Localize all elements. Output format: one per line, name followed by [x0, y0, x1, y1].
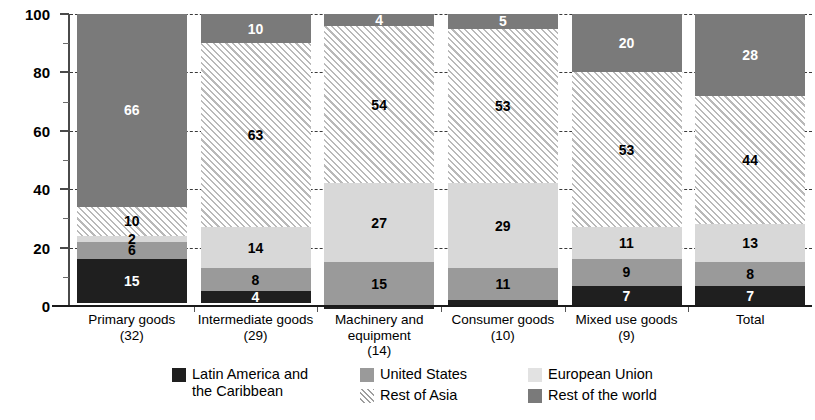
us-swatch: [360, 368, 374, 382]
segment: 28: [695, 14, 805, 96]
legend-item[interactable]: United States: [360, 366, 467, 383]
segment: 11: [448, 268, 558, 300]
segment-value-label: 8: [252, 273, 260, 287]
y-tick-40: [60, 188, 69, 190]
y-tick-minor-70: [63, 102, 69, 103]
eu-swatch: [528, 368, 542, 382]
segment-value-label: 10: [248, 22, 264, 36]
segment: 63: [201, 43, 311, 227]
segment-value-label: 5: [499, 14, 507, 28]
bar-machinery-and-equipment[interactable]: 4542715: [324, 14, 434, 306]
segment: 53: [572, 72, 682, 227]
y-tick-label-40: 40: [14, 182, 50, 197]
segment: 20: [572, 14, 682, 72]
legend-item[interactable]: European Union: [528, 366, 653, 383]
legend-label: United States: [380, 366, 467, 383]
segment-value-label: 53: [619, 143, 635, 157]
chart-legend: Latin America and the CaribbeanUnited St…: [0, 366, 815, 416]
y-tick-label-100: 100: [14, 7, 50, 22]
bar-primary-goods[interactable]: 66102615: [77, 14, 187, 306]
y-tick-label-80: 80: [14, 65, 50, 80]
legend-item[interactable]: Rest of Asia: [360, 387, 457, 404]
y-tick-60: [60, 130, 69, 132]
y-tick-100: [60, 13, 69, 15]
segment-value-label: 10: [124, 214, 140, 228]
segment-value-label: 28: [742, 48, 758, 62]
segment-value-label: 11: [619, 236, 634, 250]
legend-label: Rest of Asia: [380, 387, 457, 404]
lac-swatch: [172, 368, 186, 382]
y-tick-label-60: 60: [14, 124, 50, 139]
legend-item[interactable]: Latin America and the Caribbean: [172, 366, 308, 400]
segment: 54: [324, 26, 434, 184]
segment: 14: [201, 227, 311, 268]
segment: 27: [324, 183, 434, 262]
category-label-6: Total: [675, 312, 815, 328]
segment-value-label: 8: [746, 267, 754, 281]
x-axis-line: [52, 305, 812, 307]
segment-value-label: 14: [248, 241, 264, 255]
y-tick-minor-90: [63, 43, 69, 44]
segment: 10: [201, 14, 311, 43]
segment-value-label: 29: [495, 219, 511, 233]
x-axis-category-labels: Primary goods (32)Intermediate goods (29…: [0, 312, 815, 360]
segment-value-label: 4: [252, 290, 260, 304]
row-swatch: [528, 389, 542, 403]
plot-area: 6610261510631484454271555329112053119728…: [70, 14, 812, 306]
segment: 4: [324, 14, 434, 26]
legend-label: European Union: [548, 366, 653, 383]
y-tick-minor-10: [63, 277, 69, 278]
legend-label: Rest of the world: [548, 387, 657, 404]
segment-value-label: 15: [124, 274, 140, 288]
segment-value-label: 63: [248, 128, 264, 142]
segment: 29: [448, 183, 558, 268]
segment: 44: [695, 96, 805, 224]
bar-consumer-goods[interactable]: 5532911: [448, 14, 558, 306]
segment-value-label: 6: [128, 243, 136, 257]
segment-value-label: 44: [742, 153, 758, 167]
y-tick-20: [60, 247, 69, 249]
y-tick-minor-30: [63, 218, 69, 219]
segment: 13: [695, 224, 805, 262]
segment-value-label: 66: [124, 103, 140, 117]
y-tick-label-20: 20: [14, 241, 50, 256]
segment-value-label: 15: [371, 277, 387, 291]
stacked-bar-chart: 020406080100 661026151063148445427155532…: [0, 0, 815, 420]
segment: 7: [695, 286, 805, 306]
segment-value-label: 7: [623, 289, 631, 303]
segment: 5: [448, 14, 558, 29]
asia-swatch: [360, 389, 374, 403]
segment-value-label: 4: [375, 13, 383, 27]
segment: 8: [201, 268, 311, 291]
segment: 15: [77, 259, 187, 303]
bar-total[interactable]: 28441387: [695, 14, 805, 306]
segment: 4: [201, 291, 311, 303]
segment: 15: [324, 262, 434, 306]
legend-item[interactable]: Rest of the world: [528, 387, 657, 404]
segment-value-label: 27: [371, 216, 387, 230]
y-tick-minor-50: [63, 160, 69, 161]
segment-value-label: 20: [619, 36, 635, 50]
segment-value-label: 53: [495, 99, 511, 113]
bar-mixed-use-goods[interactable]: 20531197: [572, 14, 682, 306]
segment-value-label: 54: [371, 98, 387, 112]
segment-value-label: 9: [623, 265, 631, 279]
segment: 7: [572, 286, 682, 306]
segment: 9: [572, 259, 682, 285]
segment: 11: [572, 227, 682, 259]
segment-value-label: 11: [495, 277, 510, 291]
segment: 53: [448, 29, 558, 184]
segment: 6: [77, 242, 187, 260]
bar-intermediate-goods[interactable]: 10631484: [201, 14, 311, 306]
y-tick-80: [60, 71, 69, 73]
segment-value-label: 13: [742, 236, 758, 250]
legend-label: Latin America and the Caribbean: [192, 366, 308, 400]
segment: 66: [77, 14, 187, 207]
segment-value-label: 7: [746, 289, 754, 303]
segment: 8: [695, 262, 805, 285]
